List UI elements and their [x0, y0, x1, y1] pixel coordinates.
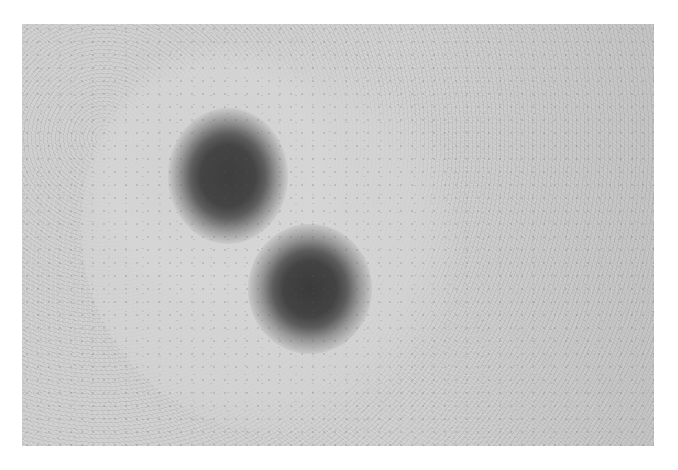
micrograph-photo — [22, 24, 654, 446]
surface-specks — [22, 24, 654, 446]
